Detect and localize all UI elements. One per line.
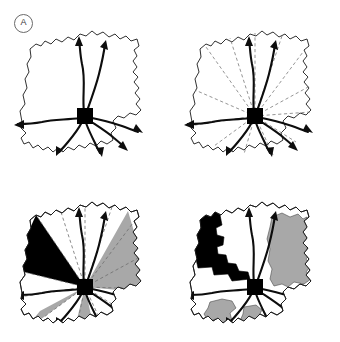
hub-node bbox=[77, 279, 93, 295]
panel-label-a: A bbox=[14, 14, 33, 33]
panel-a: A bbox=[0, 0, 170, 171]
arrowhead-south bbox=[96, 147, 104, 157]
panel-c: C bbox=[0, 171, 170, 342]
hub-node bbox=[247, 108, 263, 124]
arrowhead-west bbox=[14, 120, 24, 129]
arrowhead-south-southeast bbox=[288, 312, 298, 322]
hub-node bbox=[77, 108, 93, 124]
arrowhead-west bbox=[184, 291, 194, 300]
arrowhead-east-southeast bbox=[303, 295, 313, 304]
figure-container: A bbox=[0, 0, 340, 342]
hub-node bbox=[247, 279, 263, 295]
arrowhead-west bbox=[14, 291, 24, 300]
panel-d-map bbox=[170, 171, 340, 342]
panel-d: D bbox=[170, 171, 340, 342]
panel-b-map bbox=[170, 0, 340, 171]
arrowhead-east-southeast bbox=[133, 295, 143, 304]
arrowhead-south bbox=[266, 318, 274, 328]
arrowhead-west bbox=[184, 120, 194, 129]
panel-b: B bbox=[170, 0, 340, 171]
arrowhead-south bbox=[96, 318, 104, 328]
arrowhead-south-southeast bbox=[118, 312, 128, 322]
panel-c-map bbox=[0, 171, 170, 342]
arrowhead-south bbox=[266, 147, 274, 157]
